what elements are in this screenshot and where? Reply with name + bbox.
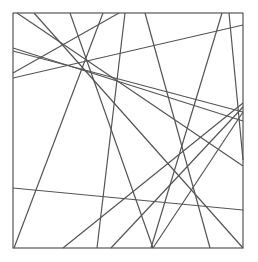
line-segment-13 (13, 188, 243, 210)
line-segment-16 (153, 112, 243, 248)
line-segment-14 (63, 103, 243, 248)
line-segment-4 (14, 13, 103, 248)
line-segment-7 (145, 13, 210, 248)
line-segment-9 (229, 13, 243, 160)
line-segment-12 (13, 51, 243, 112)
line-segment-6 (97, 13, 125, 248)
random-lines-diagram (0, 0, 258, 262)
line-segment-5 (13, 13, 119, 73)
line-set (13, 13, 243, 248)
